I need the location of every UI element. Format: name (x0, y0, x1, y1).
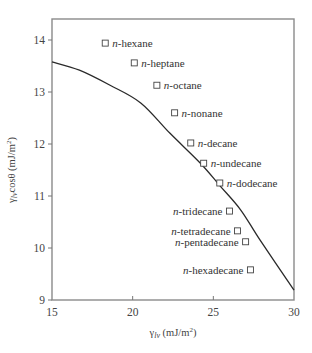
data-point: n-tridecane (173, 205, 232, 217)
data-point: n-hexane (102, 37, 152, 49)
square-marker-icon (188, 140, 194, 146)
data-point: n-heptane (131, 57, 184, 69)
data-point: n-dodecane (217, 177, 278, 189)
x-tick-label: 30 (288, 306, 300, 318)
fitted-curve (52, 62, 294, 290)
data-point: n-nonane (172, 107, 223, 119)
curve-line (52, 62, 294, 290)
y-tick-label: 9 (39, 294, 45, 306)
data-points: n-hexanen-heptanen-octanen-nonanen-decan… (102, 37, 277, 276)
data-point: n-octane (154, 79, 202, 91)
point-label: n-hexadecane (183, 264, 244, 276)
square-marker-icon (154, 82, 160, 88)
square-marker-icon (247, 267, 253, 273)
point-label: n-octane (164, 79, 202, 91)
point-label: n-heptane (141, 57, 184, 69)
data-point: n-pentadecane (175, 236, 249, 248)
x-tick-label: 25 (208, 306, 220, 318)
square-marker-icon (172, 110, 178, 116)
data-point: n-undecane (201, 157, 262, 169)
x-tick-label: 15 (46, 306, 58, 318)
y-tick-label: 13 (34, 86, 46, 98)
point-label: n-hexane (112, 37, 152, 49)
square-marker-icon (243, 239, 249, 245)
data-point: n-hexadecane (183, 264, 253, 276)
square-marker-icon (131, 60, 137, 66)
chart: 15202530 91011121314 n-hexanen-heptanen-… (0, 0, 312, 353)
point-label: n-pentadecane (175, 236, 239, 248)
point-label: n-decane (198, 137, 238, 149)
y-axis-label: γlvcosθ (mJ/m2) (5, 137, 19, 204)
y-tick-label: 11 (34, 190, 45, 202)
x-axis-ticks: 15202530 (46, 296, 300, 318)
x-tick-label: 20 (127, 306, 139, 318)
point-label: n-tridecane (173, 205, 223, 217)
square-marker-icon (235, 228, 241, 234)
y-tick-label: 14 (34, 34, 46, 46)
y-axis-ticks: 91011121314 (34, 34, 53, 306)
y-tick-label: 10 (34, 242, 46, 254)
square-marker-icon (201, 160, 207, 166)
point-label: n-dodecane (227, 177, 278, 189)
data-point: n-decane (188, 137, 238, 149)
point-label: n-undecane (211, 157, 262, 169)
square-marker-icon (226, 208, 232, 214)
y-tick-label: 12 (34, 138, 46, 150)
square-marker-icon (217, 180, 223, 186)
point-label: n-nonane (182, 107, 223, 119)
square-marker-icon (102, 40, 108, 46)
x-axis-label: γlv (mJ/m2) (149, 326, 197, 340)
